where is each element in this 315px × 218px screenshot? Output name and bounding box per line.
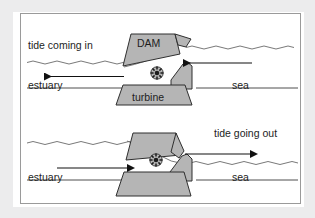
- label-estuary-lower: estuary: [28, 171, 63, 183]
- tidal-barrage-diagram: tide coming in DAM estuary sea turbine: [0, 0, 315, 218]
- label-dam-upper: DAM: [137, 37, 160, 49]
- sea-water-surface-lower: [190, 162, 298, 165]
- upper-panel: tide coming in DAM estuary sea turbine: [27, 34, 298, 105]
- turbine-wheel-icon-upper: [151, 67, 164, 80]
- figure-page: tide coming in DAM estuary sea turbine: [0, 0, 315, 218]
- label-turbine-upper: turbine: [132, 91, 164, 103]
- turbine-housing-lower: [116, 172, 191, 196]
- sea-water-surface-upper: [186, 46, 294, 49]
- label-estuary-upper: estuary: [28, 79, 63, 91]
- estuary-water-surface-lower: [27, 142, 135, 145]
- estuary-water-surface-upper: [27, 61, 135, 64]
- label-tide-coming-in: tide coming in: [28, 39, 93, 51]
- label-sea-lower: sea: [232, 171, 249, 183]
- label-sea-upper: sea: [232, 79, 249, 91]
- label-tide-going-out: tide going out: [214, 127, 277, 139]
- turbine-wheel-icon-lower: [150, 154, 163, 167]
- lower-panel: tide going out estuary sea: [27, 127, 298, 196]
